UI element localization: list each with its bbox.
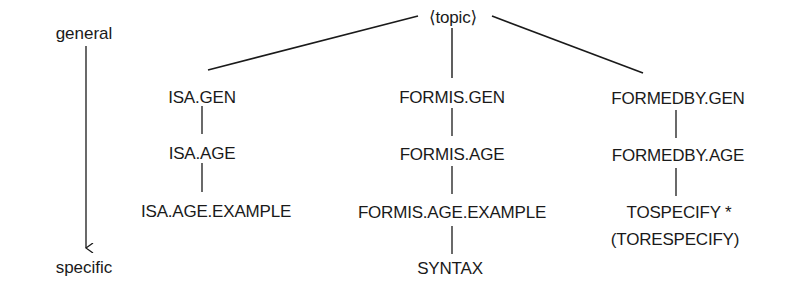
- node-formis-gen: FORMIS.GEN: [399, 89, 505, 106]
- axis-label-general: general: [56, 25, 113, 42]
- node-formis-age: FORMIS.AGE: [400, 146, 505, 163]
- node-torespecify: (TORESPECIFY): [611, 231, 739, 248]
- edge-topic-isa-gen: [208, 16, 418, 70]
- node-topic: ⟨topic⟩: [429, 9, 477, 26]
- node-tospecify: TOSPECIFY *: [627, 204, 732, 221]
- node-syntax: SYNTAX: [417, 260, 483, 277]
- node-formedby-age: FORMEDBY.AGE: [612, 147, 744, 164]
- axis-label-specific: specific: [56, 259, 113, 276]
- node-isa-age: ISA.AGE: [169, 145, 236, 162]
- node-isa-gen: ISA.GEN: [168, 89, 236, 106]
- node-isa-age-example: ISA.AGE.EXAMPLE: [141, 203, 291, 220]
- node-formis-age-example: FORMIS.AGE.EXAMPLE: [358, 204, 546, 221]
- node-formedby-gen: FORMEDBY.GEN: [611, 90, 744, 107]
- edge-topic-formedby-gen: [492, 16, 643, 73]
